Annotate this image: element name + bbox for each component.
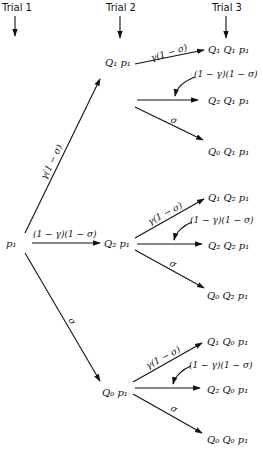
edge-label-q0-mid: (1 − γ)(1 − σ) — [189, 360, 253, 370]
edge-label-root-q1: γ(1 − σ) — [39, 142, 65, 181]
edge-label-q1-mid: (1 − γ)(1 − σ) — [194, 69, 258, 79]
node-q0-q0-p1: Q₀ Q₀ p₁ — [207, 434, 248, 445]
node-q1-q0-p1: Q₁ Q₀ p₁ — [207, 336, 248, 347]
trial-1-header: Trial 1 — [1, 2, 32, 13]
node-q0-q1-p1: Q₀ Q₁ p₁ — [208, 146, 249, 157]
probability-tree-diagram: Trial 1 Trial 2 Trial 3 p₁ γ(1 − σ) (1 −… — [0, 0, 263, 452]
node-q0-p1: Q₀ p₁ — [102, 387, 128, 398]
trial-2-header: Trial 2 — [105, 2, 136, 13]
edge-label-root-q2: (1 − γ)(1 − σ) — [33, 229, 97, 239]
node-q1-p1: Q₁ p₁ — [105, 57, 131, 68]
root-node: p₁ — [6, 238, 16, 249]
edge-label-q2-down: σ — [168, 258, 179, 270]
edge-label-q0-down: σ — [169, 403, 180, 415]
node-q2-q2-p1: Q₂ Q₂ p₁ — [208, 240, 249, 251]
edge-label-q2-mid: (1 − γ)(1 − σ) — [190, 215, 254, 225]
node-q2-p1: Q₂ p₁ — [104, 238, 130, 249]
edge-root-q1 — [25, 79, 100, 233]
node-q1-q2-p1: Q₁ Q₂ p₁ — [208, 192, 249, 203]
edge-label-root-q0: σ — [66, 316, 78, 327]
branch-group-q1: γ(1 − σ) (1 − γ)(1 − σ) σ — [135, 42, 258, 140]
node-q0-q2-p1: Q₀ Q₂ p₁ — [207, 290, 248, 301]
node-q1-q1-p1: Q₁ Q₁ p₁ — [208, 44, 249, 55]
node-q2-q1-p1: Q₂ Q₁ p₁ — [208, 95, 249, 106]
edge-root-q0 — [25, 253, 100, 381]
edge-label-q1-up: γ(1 − σ) — [150, 42, 189, 63]
trial-3-header: Trial 3 — [211, 2, 242, 13]
node-q2-q0-p1: Q₂ Q₀ p₁ — [207, 384, 248, 395]
